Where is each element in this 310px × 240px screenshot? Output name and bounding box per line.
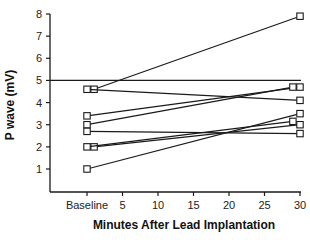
series-line xyxy=(84,128,303,137)
square-marker-icon xyxy=(290,84,296,90)
x-tick-label: 25 xyxy=(258,199,270,211)
x-tick-label: 30 xyxy=(294,199,306,211)
series-line xyxy=(91,122,303,151)
y-tick-label: 1 xyxy=(36,163,42,175)
x-tick-label: Baseline xyxy=(66,199,108,211)
y-tick-label: 5 xyxy=(36,74,42,86)
square-marker-icon xyxy=(297,110,303,116)
data-series xyxy=(84,13,303,172)
square-marker-icon xyxy=(84,128,90,134)
x-axis-title: Minutes After Lead Implantation xyxy=(93,218,275,232)
y-tick-label: 4 xyxy=(36,97,42,109)
square-marker-icon xyxy=(297,84,303,90)
y-tick-label: 3 xyxy=(36,119,42,131)
square-marker-icon xyxy=(84,113,90,119)
p-wave-line-chart: 12345678 Baseline51015202530 P wave (mV)… xyxy=(0,0,310,240)
y-tick-label: 8 xyxy=(36,8,42,20)
square-marker-icon xyxy=(84,144,90,150)
square-marker-icon xyxy=(84,122,90,128)
square-marker-icon xyxy=(297,97,303,103)
y-axis-title: P wave (mV) xyxy=(3,70,17,140)
y-tick-label: 7 xyxy=(36,30,42,42)
y-axis: 12345678 xyxy=(36,8,50,192)
y-tick-label: 2 xyxy=(36,141,42,153)
square-marker-icon xyxy=(297,122,303,128)
y-tick-label: 6 xyxy=(36,52,42,64)
series-line xyxy=(84,84,303,119)
x-tick-label: 15 xyxy=(187,199,199,211)
x-axis: Baseline51015202530 xyxy=(50,192,306,211)
x-tick-label: 5 xyxy=(119,199,125,211)
square-marker-icon xyxy=(84,86,90,92)
x-tick-label: 20 xyxy=(223,199,235,211)
x-tick-label: 10 xyxy=(152,199,164,211)
square-marker-icon xyxy=(297,130,303,136)
square-marker-icon xyxy=(84,166,90,172)
square-marker-icon xyxy=(290,118,296,124)
square-marker-icon xyxy=(297,13,303,19)
